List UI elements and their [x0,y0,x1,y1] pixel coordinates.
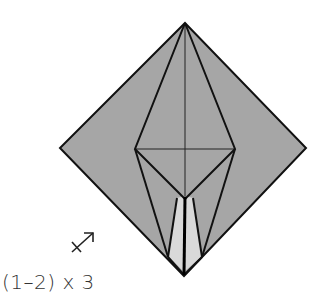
turn-over-arrow-icon [72,233,93,252]
step-label: (1–2) x 3 [2,270,95,294]
origami-diagram [0,0,328,297]
center-thick-line [184,197,185,275]
